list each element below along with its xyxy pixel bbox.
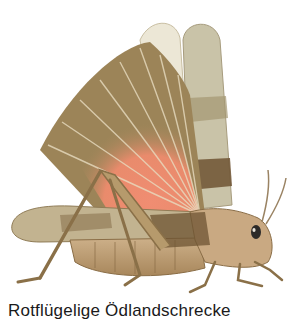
grasshopper-illustration xyxy=(0,0,297,300)
compound-eye xyxy=(251,225,261,239)
antennae xyxy=(262,170,286,224)
figure-caption: Rotflügelige Ödlandschrecke xyxy=(8,301,231,321)
